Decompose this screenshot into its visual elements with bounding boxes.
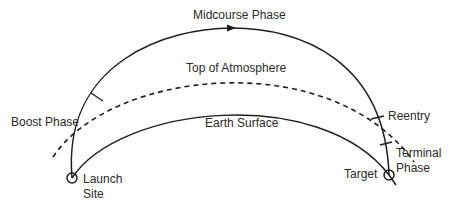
terminal-phase-label-line2: Phase: [396, 161, 430, 175]
boost-end-tick: [91, 93, 103, 101]
target-label: Target: [344, 167, 378, 181]
launch-site-label-line2: Site: [83, 187, 104, 201]
reentry-label: Reentry: [388, 109, 430, 123]
direction-arrow-icon: [227, 25, 236, 32]
midcourse-phase-label: Midcourse Phase: [193, 8, 286, 22]
earth-surface-label: Earth Surface: [205, 116, 279, 130]
terminal-phase-label-line1: Terminal: [396, 146, 441, 160]
boost-phase-label: Boost Phase: [11, 115, 79, 129]
top-of-atmosphere-label: Top of Atmosphere: [186, 61, 286, 75]
trajectory-diagram: Midcourse Phase Top of Atmosphere Boost …: [0, 0, 450, 208]
launch-site-label-line1: Launch: [83, 172, 122, 186]
